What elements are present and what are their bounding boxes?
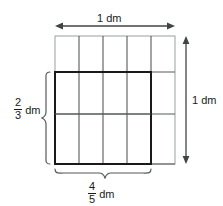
top-arrow-head-left xyxy=(55,23,63,30)
bottom-dimension-label: 4 5 dm xyxy=(88,182,114,206)
top-dimension-label: 1 dm xyxy=(97,13,121,24)
left-brace xyxy=(42,72,50,164)
right-dimension-arrow xyxy=(183,36,190,164)
left-fraction-numerator: 2 xyxy=(14,97,22,109)
left-fraction-denominator: 3 xyxy=(14,109,22,122)
right-dimension-label: 1 dm xyxy=(192,95,216,106)
left-brace-upper xyxy=(42,72,50,118)
bottom-brace xyxy=(55,169,151,178)
right-arrow-head-bottom xyxy=(183,156,190,164)
unit-square-outline xyxy=(55,36,175,164)
left-unit-label: dm xyxy=(22,105,40,116)
bottom-unit-label: dm xyxy=(96,189,114,200)
left-brace-lower xyxy=(42,118,50,164)
bottom-fraction-denominator: 5 xyxy=(88,193,96,206)
bottom-brace-right xyxy=(105,169,151,178)
bottom-fraction-numerator: 4 xyxy=(88,181,96,193)
top-arrow-head-right xyxy=(167,23,175,30)
bottom-brace-left xyxy=(55,169,105,178)
left-fraction: 2 3 xyxy=(14,97,22,121)
bottom-fraction: 4 5 xyxy=(88,181,96,205)
left-dimension-label: 2 3 dm xyxy=(14,98,40,122)
area-model-figure: 1 dm 1 dm 2 3 dm 4 5 dm xyxy=(0,0,223,206)
right-arrow-head-top xyxy=(183,36,190,44)
